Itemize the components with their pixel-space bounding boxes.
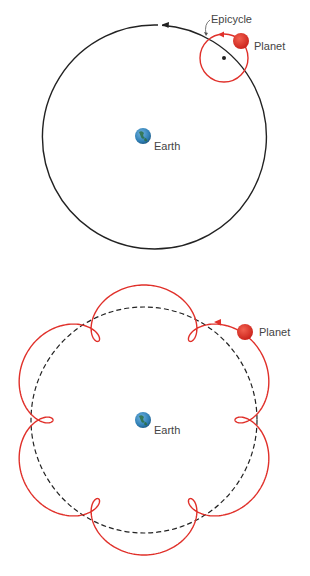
epicycle-label: Epicycle bbox=[211, 13, 252, 25]
top-diagram: Epicycle Planet Earth bbox=[42, 13, 285, 249]
top-planet-label: Planet bbox=[254, 40, 285, 52]
deferent-direction-arrow-icon bbox=[162, 22, 169, 28]
planet-icon bbox=[233, 33, 249, 49]
epicycle-diagram: Epicycle Planet Earth Planet Earth bbox=[0, 0, 310, 576]
bottom-diagram: Planet Earth bbox=[19, 285, 290, 555]
epicycle-direction-arrow-icon bbox=[218, 32, 224, 38]
bottom-earth-label: Earth bbox=[154, 424, 180, 436]
epicycle-center-dot bbox=[222, 56, 226, 60]
top-earth-label: Earth bbox=[154, 140, 180, 152]
epicycle-label-leader bbox=[206, 20, 211, 34]
bottom-planet-icon bbox=[237, 324, 253, 340]
deferent-circle bbox=[42, 25, 266, 249]
leader-arrow-icon bbox=[204, 32, 208, 36]
bottom-planet-label: Planet bbox=[259, 326, 290, 338]
